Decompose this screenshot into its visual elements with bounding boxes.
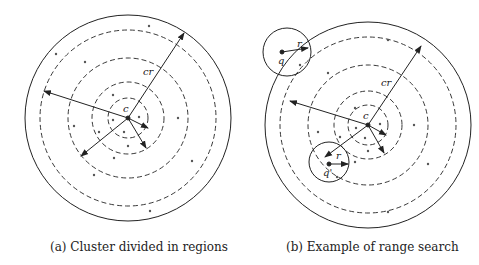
- label-r-q-prime: r: [336, 150, 341, 161]
- query-q-radius-arrow: [282, 48, 308, 52]
- data-points: [299, 39, 429, 213]
- label-cr-b: cr: [381, 77, 391, 88]
- label-c-a: c: [123, 103, 129, 114]
- figure-canvas: [0, 0, 479, 265]
- query-q-circle: [263, 28, 311, 76]
- panel-b-diagram: [263, 22, 471, 228]
- data-points: [55, 25, 193, 212]
- label-q-prime: q': [323, 167, 332, 178]
- label-r-q: r: [297, 38, 302, 49]
- panel-a-diagram: [25, 15, 231, 221]
- caption-b: (b) Example of range search: [286, 240, 459, 254]
- caption-a: (a) Cluster divided in regions: [50, 240, 228, 254]
- center-point: [366, 123, 370, 127]
- center-point: [126, 116, 130, 120]
- label-cr-a: cr: [143, 66, 153, 77]
- label-q: q: [278, 55, 284, 66]
- label-c-b: c: [363, 110, 369, 121]
